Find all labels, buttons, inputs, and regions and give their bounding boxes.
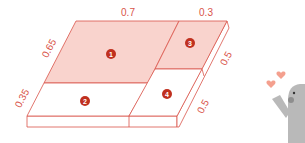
heart-icon bbox=[276, 72, 285, 79]
badge-3-label: 3 bbox=[188, 40, 192, 47]
dim-top-left: 0.7 bbox=[121, 7, 135, 18]
badge-3: 3 bbox=[185, 38, 195, 48]
badge-1: 1 bbox=[106, 49, 116, 59]
badge-2: 2 bbox=[80, 96, 90, 106]
heart-icon bbox=[266, 81, 275, 88]
dim-top-right: 0.3 bbox=[199, 7, 213, 18]
badge-1-label: 1 bbox=[109, 51, 113, 58]
waving-mascot-icon bbox=[266, 72, 305, 143]
dim-left-upper: 0.65 bbox=[39, 37, 58, 60]
dim-right-upper: 0.5 bbox=[218, 49, 234, 67]
badge-2-label: 2 bbox=[83, 98, 87, 105]
dim-left-lower: 0.35 bbox=[12, 87, 31, 110]
badge-4: 4 bbox=[162, 89, 172, 99]
badge-4-label: 4 bbox=[165, 91, 169, 98]
dim-right-lower: 0.5 bbox=[195, 97, 211, 115]
probability-diagram: 1 2 3 4 0.7 0.3 0.65 0.35 0.5 0.5 bbox=[0, 0, 305, 143]
